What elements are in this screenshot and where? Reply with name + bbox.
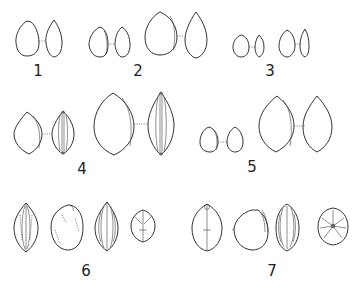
figure-label-1: 1 [33,64,43,79]
figure-2-drawing [89,12,207,58]
figure-label-4: 4 [77,162,87,177]
figure-label-3: 3 [265,64,275,79]
figure-label-5: 5 [247,160,257,175]
figure-label-6: 6 [81,264,91,279]
figure-5-drawing [200,96,332,152]
figure-label-7: 7 [267,264,277,279]
figure-7-drawing [192,204,348,251]
figure-4-drawing [14,91,174,155]
figure-label-2: 2 [133,64,143,79]
figure-3-drawing [233,29,309,57]
illustration-plate: 1 2 3 4 5 6 7 [0,0,363,291]
figure-1-drawing [16,20,62,57]
figure-6-drawing [14,202,155,252]
